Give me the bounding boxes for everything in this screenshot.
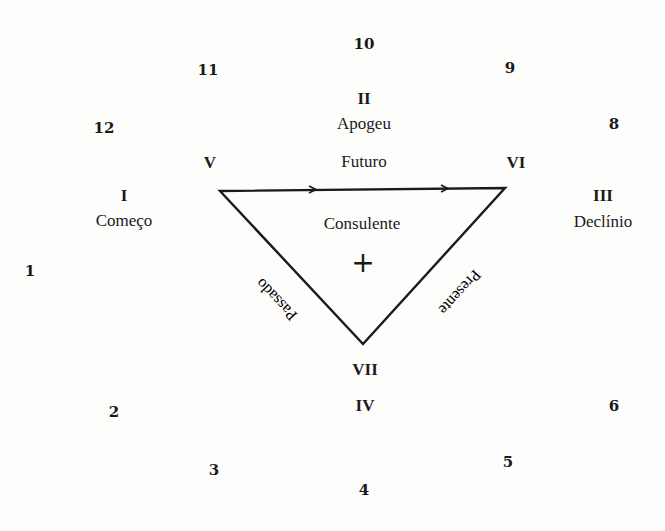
sector-numeral-i: I <box>121 186 128 206</box>
sector-name-declinio: Declínio <box>574 212 633 232</box>
center-cross-icon: + <box>351 246 374 279</box>
sector-numeral-ii: II <box>357 89 370 109</box>
triangle-diagram: Passado Presente <box>0 0 665 531</box>
sector-numeral-iv: IV <box>356 396 375 416</box>
side-label-passado: Passado <box>252 275 300 324</box>
sector-numeral-iii: III <box>593 186 613 206</box>
vertex-label-vii: VII <box>352 360 378 380</box>
side-label-futuro: Futuro <box>341 152 386 172</box>
vertex-label-vi: VI <box>507 153 526 173</box>
sector-name-comeco: Começo <box>96 211 153 231</box>
vertex-label-v: V <box>204 153 216 173</box>
center-label-consulente: Consulente <box>324 214 401 234</box>
sector-name-apogeu: Apogeu <box>337 114 391 134</box>
side-label-presente: Presente <box>436 267 485 319</box>
